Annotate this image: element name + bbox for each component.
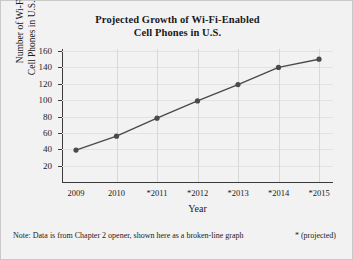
plot-area: 20406080100120140160 20092010*2011*2012*… [62, 47, 333, 183]
data-point-marker [316, 57, 321, 62]
y-axis-tick-label: 60 [43, 128, 52, 138]
footnote: Note: Data is from Chapter 2 opener, sho… [13, 231, 342, 240]
chart-title: Projected Growth of Wi-Fi-Enabled Cell P… [1, 13, 353, 39]
data-point-marker [114, 134, 119, 139]
footnote-legend: * (projected) [295, 231, 342, 240]
data-point-marker [195, 98, 200, 103]
x-axis-tick-label: 2009 [68, 188, 85, 198]
line-series [62, 47, 333, 183]
x-axis-tick-label: *2011 [147, 188, 168, 198]
x-axis-tick-label: 2010 [108, 188, 125, 198]
data-point-marker [235, 82, 240, 87]
y-axis-title: Number of Wi-Fi-Enabled Cell Phones in U… [14, 0, 48, 81]
y-axis-title-line-2: Cell Phones in U.S. (in millions) [26, 0, 38, 81]
series-line [76, 59, 319, 150]
y-axis-tick-label: 20 [43, 161, 52, 171]
data-point-marker [276, 65, 281, 70]
chart-title-line-1: Projected Growth of Wi-Fi-Enabled [1, 13, 353, 26]
x-axis-tick-label: *2012 [187, 188, 208, 198]
chart-figure: Projected Growth of Wi-Fi-Enabled Cell P… [0, 0, 353, 260]
y-axis-tick-label: 100 [39, 95, 53, 105]
data-point-marker [154, 116, 159, 121]
x-axis-title: Year [62, 203, 333, 214]
x-axis-tick-label: *2015 [308, 188, 329, 198]
x-axis-tick-label: *2014 [268, 188, 289, 198]
chart-title-line-2: Cell Phones in U.S. [1, 26, 353, 39]
y-axis-tick-label: 80 [43, 112, 52, 122]
data-point-marker [73, 147, 78, 152]
y-axis-title-line-1: Number of Wi-Fi-Enabled [14, 0, 26, 81]
y-axis-tick-label: 40 [43, 144, 52, 154]
x-axis-tick-label: *2013 [227, 188, 248, 198]
footnote-note: Note: Data is from Chapter 2 opener, sho… [13, 231, 244, 240]
